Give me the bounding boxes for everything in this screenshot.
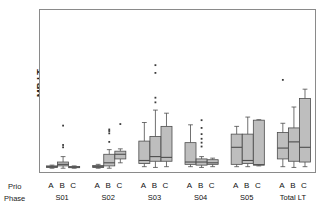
prio-tick-S01-C: C — [64, 181, 82, 190]
box-S01-C — [69, 166, 80, 168]
outlier-point — [62, 125, 64, 127]
prio-tick-S05-C: C — [249, 181, 267, 190]
x-axis-tick-layer: ABCS01ABCS02ABCS03ABCS04ABCS05ABCTotal L… — [39, 176, 316, 218]
boxplot-canvas — [40, 10, 317, 174]
box-S04-C — [207, 158, 218, 167]
outlier-point — [201, 127, 203, 129]
outlier-point — [108, 129, 110, 131]
prio-tick-S03-C: C — [156, 181, 174, 190]
outlier-point — [62, 144, 64, 146]
box-Total-LT-B — [288, 107, 299, 167]
box-S05-B — [242, 117, 253, 167]
box-rect — [115, 151, 126, 159]
plot-area — [39, 9, 316, 173]
box-rect — [150, 136, 161, 161]
box-Total-LT-C — [299, 89, 310, 167]
outlier-point — [155, 101, 157, 103]
box-S01-B — [58, 125, 69, 169]
prio-row-label: Prio — [8, 182, 21, 191]
box-rect — [288, 128, 299, 161]
box-S01-A — [47, 165, 58, 168]
prio-tick-S02-C: C — [110, 181, 128, 190]
box-rect — [299, 98, 310, 162]
box-S02-B — [104, 129, 115, 169]
outlier-point — [62, 146, 64, 148]
outlier-point — [201, 133, 203, 135]
box-S03-A — [139, 123, 150, 167]
outlier-point — [155, 72, 157, 74]
box-rect — [185, 143, 196, 165]
box-S04-B — [196, 119, 207, 167]
prio-tick-S04-C: C — [203, 181, 221, 190]
phase-tick-Total-LT: Total LT — [263, 193, 323, 202]
phase-row-label: Phase — [4, 194, 25, 203]
outlier-point — [108, 141, 110, 143]
outlier-point — [119, 123, 121, 125]
boxplot-figure: MR LT Prio Phase ABCS01ABCS02ABCS03ABCS0… — [0, 0, 324, 221]
outlier-point — [108, 130, 110, 132]
box-rect — [161, 126, 172, 161]
box-rect — [277, 133, 288, 159]
outlier-point — [201, 146, 203, 148]
outlier-point — [108, 132, 110, 134]
box-Total-LT-A — [277, 79, 288, 167]
box-rect — [231, 134, 242, 164]
outlier-point — [201, 142, 203, 144]
outlier-point — [155, 97, 157, 99]
box-S05-A — [231, 126, 242, 166]
outlier-point — [155, 64, 157, 66]
box-rect — [207, 160, 218, 165]
box-S03-C — [161, 113, 172, 166]
outlier-point — [201, 119, 203, 121]
box-S04-A — [185, 125, 196, 167]
outlier-point — [282, 79, 284, 81]
box-S05-C — [253, 120, 264, 166]
box-rect — [242, 134, 253, 163]
prio-tick-Total-LT-C: C — [295, 181, 313, 190]
box-rect — [104, 154, 115, 166]
box-S03-B — [150, 64, 161, 167]
box-rect — [253, 120, 264, 165]
outlier-point — [201, 138, 203, 140]
box-S02-C — [115, 123, 126, 163]
box-S02-A — [93, 164, 104, 168]
